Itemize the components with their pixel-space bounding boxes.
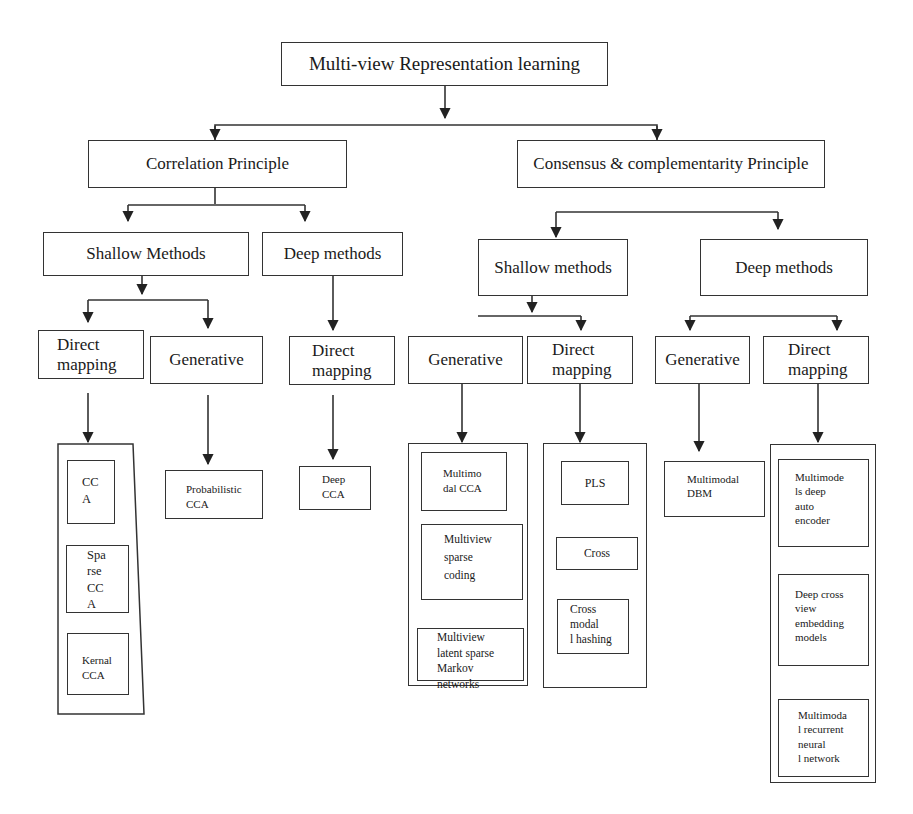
leaf-multimodal-dbm: Multimodal DBM [664,461,765,517]
node-label: Generative [428,350,503,370]
node-label: Shallow methods [494,258,612,278]
leaf-label: Probabilistic CCA [186,482,242,512]
leaf-multimodal-recurrent-neural-network: Multimoda l recurrent neural l network [778,699,869,777]
leaf-cross-modal-hashing: Cross modal l hashing [557,599,629,654]
node-label: Generative [169,350,244,370]
node-cons-deep-direct-mapping: Direct mapping [763,336,869,384]
node-correlation-shallow: Shallow Methods [43,232,249,276]
leaf-label: Multimoda l recurrent neural l network [798,708,847,765]
leaf-label: PLS [585,475,606,491]
leaf-label: Deep CCA [322,472,345,502]
leaf-label: Multiview latent sparse Markov networks [437,630,494,692]
node-label: Direct mapping [312,341,372,380]
node-label: Shallow Methods [86,244,205,264]
leaf-cross: Cross [556,537,638,570]
leaf-probabilistic-cca: Probabilistic CCA [165,470,263,519]
leaf-multiview-latent-sparse-markov-networks: Multiview latent sparse Markov networks [417,628,524,681]
node-consensus-deep: Deep methods [700,239,868,296]
leaf-label: Cross modal l hashing [570,602,612,647]
leaf-label: Multiview sparse coding [444,531,492,584]
leaf-label: Kernal CCA [82,653,112,683]
leaf-label: Multimo dal CCA [443,466,482,496]
node-label: Deep methods [284,244,382,264]
node-label: Deep methods [735,258,833,278]
node-cons-shallow-generative: Generative [408,336,523,384]
node-consensus-principle: Consensus & complementarity Principle [517,140,825,188]
leaf-deep-cca: Deep CCA [299,466,371,510]
leaf-label: Multimode ls deep auto encoder [795,470,844,527]
leaf-label: Deep cross view embedding models [795,587,844,644]
leaf-sparse-cca: Spa rse CC A [66,545,129,613]
root-node: Multi-view Representation learning [281,42,608,86]
leaf-label: Spa rse CC A [87,547,106,612]
node-label: Direct mapping [788,340,848,379]
node-label: Generative [665,350,740,370]
node-consensus-shallow: Shallow methods [478,239,628,296]
node-correlation-principle: Correlation Principle [88,140,347,188]
node-label: Consensus & complementarity Principle [533,154,808,174]
leaf-deep-cross-view-embedding-models: Deep cross view embedding models [778,574,869,666]
node-correlation-deep: Deep methods [262,232,403,276]
leaf-multiview-sparse-coding: Multiview sparse coding [421,524,523,600]
node-corr-shallow-generative: Generative [150,336,263,384]
node-cons-deep-generative: Generative [655,336,750,384]
node-corr-shallow-direct-mapping: Direct mapping [38,330,144,379]
leaf-cca: CC A [67,460,115,524]
node-label: Direct mapping [552,340,612,379]
leaf-label: CC A [82,474,99,508]
leaf-multimodels-deep-autoencoder: Multimode ls deep auto encoder [778,459,869,547]
leaf-label: Multimodal DBM [687,473,739,501]
leaf-label: Cross [584,546,610,562]
root-label: Multi-view Representation learning [309,53,580,75]
leaf-pls: PLS [561,461,629,505]
node-cons-shallow-direct-mapping: Direct mapping [527,336,633,384]
node-label: Correlation Principle [146,154,289,174]
node-label: Direct mapping [57,335,117,374]
leaf-multimodal-cca: Multimo dal CCA [421,452,507,511]
node-corr-deep-direct-mapping: Direct mapping [289,336,395,385]
leaf-kernal-cca: Kernal CCA [67,633,129,695]
